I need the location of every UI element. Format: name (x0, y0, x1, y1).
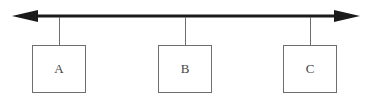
right-arrowhead-icon (334, 10, 360, 22)
node-a-label: A (54, 61, 63, 77)
node-b-label: B (181, 61, 190, 77)
node-a: A (32, 45, 86, 93)
node-c-label: C (306, 61, 315, 77)
left-arrowhead-icon (12, 10, 38, 22)
node-b: B (158, 45, 212, 93)
node-c: C (283, 45, 337, 93)
